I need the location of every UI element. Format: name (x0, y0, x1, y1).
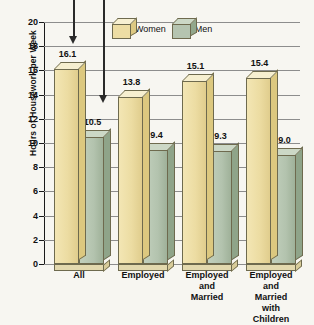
y-tick-label: 14 (4, 90, 38, 100)
legend-item-men: Men (172, 19, 213, 39)
chart-legend: WomenMen (112, 19, 212, 39)
y-tick-label: 8 (4, 162, 38, 172)
bar-front-face (118, 97, 143, 264)
y-tick-label: 12 (4, 114, 38, 124)
bar-side-face (207, 73, 214, 260)
bar-value-label: 16.1 (50, 49, 85, 59)
bar-women-1 (118, 97, 143, 264)
bar-women-3 (246, 78, 271, 264)
y-tick-label: 6 (4, 186, 38, 196)
y-tick-label: 20 (4, 17, 38, 27)
bar-value-label: 15.1 (178, 61, 213, 71)
cube-swatch-men (172, 24, 191, 39)
cube-swatch-women (112, 24, 131, 39)
bar-side-face (104, 128, 111, 260)
x-axis-label-3: EmployedandMarriedwithChildren (232, 270, 310, 325)
bar-front-face (182, 81, 207, 264)
bar-side-face (143, 88, 150, 260)
y-tick-label: 16 (4, 65, 38, 75)
legend-label: Women (135, 24, 166, 34)
x-label-line: Employed (232, 270, 310, 281)
bar-side-face (168, 142, 175, 260)
bar-women-0 (54, 69, 79, 264)
y-tick-label: 0 (4, 259, 38, 269)
x-label-line: Married (232, 292, 310, 303)
bar-side-face (296, 147, 303, 260)
y-tick-label: 4 (4, 211, 38, 221)
x-label-line: and (232, 281, 310, 292)
x-label-line: with (232, 303, 310, 314)
bar-value-label: 13.8 (114, 77, 149, 87)
y-tick-label: 2 (4, 235, 38, 245)
bar-side-face (271, 69, 278, 260)
bar-front-face (54, 69, 79, 264)
bar-side-face (79, 61, 86, 260)
x-label-line: Children (232, 314, 310, 325)
legend-item-women: Women (112, 19, 166, 39)
legend-label: Men (195, 24, 213, 34)
bar-women-2 (182, 81, 207, 264)
y-tick-label: 18 (4, 41, 38, 51)
bar-front-face (246, 78, 271, 264)
y-tick-label: 10 (4, 138, 38, 148)
bar-value-label: 15.4 (242, 58, 277, 68)
bar-side-face (232, 143, 239, 260)
